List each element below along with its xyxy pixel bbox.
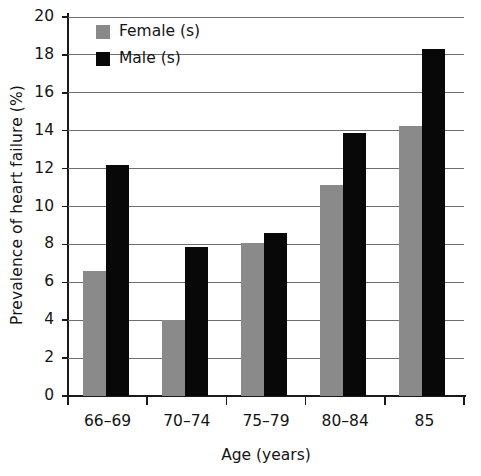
legend-item-male: Male (s)	[96, 49, 200, 69]
x-axis-category-label: 85	[385, 414, 464, 430]
y-axis-tick-label: 8	[24, 236, 54, 252]
y-axis-tick-label: 2	[24, 350, 54, 366]
legend: Female (s)Male (s)	[96, 22, 200, 69]
male-swatch	[96, 52, 110, 66]
y-axis-tick	[62, 168, 68, 170]
x-axis-tick	[67, 396, 69, 405]
bar-female-2	[241, 243, 264, 396]
gridline	[68, 17, 464, 18]
legend-label: Male (s)	[119, 51, 181, 67]
y-axis-tick-label: 0	[24, 388, 54, 404]
x-axis-tick	[463, 396, 465, 405]
y-axis-tick	[62, 357, 68, 359]
x-axis-tick	[305, 396, 307, 405]
bar-male-4	[422, 49, 445, 396]
bar-male-1	[185, 247, 208, 396]
y-axis-tick	[62, 244, 68, 246]
y-axis-line	[67, 13, 69, 396]
x-axis-title: Age (years)	[68, 446, 464, 464]
female-swatch	[96, 25, 110, 39]
y-axis-tick	[62, 92, 68, 94]
bar-male-3	[343, 133, 366, 396]
bar-chart-figure: Prevalence of heart failure (%) 02468101…	[0, 0, 481, 476]
bar-male-2	[264, 233, 287, 396]
plot-area	[68, 17, 464, 396]
y-axis-tick-label: 14	[24, 123, 54, 139]
bar-female-4	[399, 126, 422, 396]
y-axis-tick-label: 20	[24, 9, 54, 25]
y-axis-tick-label: 18	[24, 47, 54, 63]
y-axis-tick-label: 16	[24, 85, 54, 101]
bar-female-0	[83, 271, 106, 396]
y-axis-tick-label: 4	[24, 312, 54, 328]
x-axis-tick	[226, 396, 228, 405]
y-axis-tick	[62, 282, 68, 284]
y-axis-tick	[62, 54, 68, 56]
bar-female-1	[162, 320, 185, 396]
x-axis-category-label: 66–69	[68, 414, 147, 430]
y-axis-tick	[62, 16, 68, 18]
y-axis-tick-label: 10	[24, 199, 54, 215]
bar-female-3	[320, 185, 343, 396]
x-axis-tick	[384, 396, 386, 405]
y-axis-tick-label: 12	[24, 161, 54, 177]
x-axis-tick	[146, 396, 148, 405]
legend-item-female: Female (s)	[96, 22, 200, 42]
y-axis-tick	[62, 319, 68, 321]
x-axis-category-label: 75–79	[226, 414, 305, 430]
y-axis-tick	[62, 206, 68, 208]
y-axis-tick-label: 6	[24, 274, 54, 290]
legend-label: Female (s)	[119, 24, 200, 40]
bar-male-0	[106, 165, 129, 396]
gridline	[68, 92, 464, 93]
x-axis-category-label: 70–74	[147, 414, 226, 430]
x-axis-category-label: 80–84	[306, 414, 385, 430]
y-axis-tick	[62, 130, 68, 132]
